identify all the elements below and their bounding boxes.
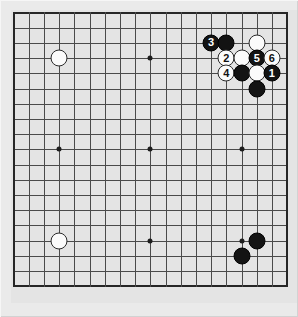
stone-white[interactable] — [51, 50, 68, 67]
grid-line-vertical — [105, 12, 106, 288]
stone-move-number: 5 — [254, 52, 260, 63]
grid-line-vertical — [211, 12, 212, 288]
stone-move-number: 1 — [269, 67, 275, 78]
star-point — [57, 147, 62, 152]
grid-line-vertical — [120, 12, 121, 288]
grid-line-vertical — [29, 12, 30, 288]
star-point — [239, 147, 244, 152]
star-point — [148, 238, 153, 243]
stone-move-number: 3 — [208, 37, 214, 48]
stone-black[interactable] — [248, 232, 265, 249]
stone-move-number: 6 — [269, 52, 275, 63]
go-diagram-app: 325641 — [0, 0, 298, 317]
stone-black-move-1[interactable]: 1 — [263, 65, 280, 82]
grid-line-vertical — [166, 12, 167, 288]
stone-move-number: 4 — [223, 67, 229, 78]
grid-line-vertical — [286, 12, 288, 288]
stone-black[interactable] — [233, 247, 250, 264]
grid-line-vertical — [90, 12, 91, 288]
grid-line-vertical — [44, 12, 45, 288]
grid-line-vertical — [13, 12, 15, 288]
grid-line-vertical — [74, 12, 75, 288]
grid-line-vertical — [196, 12, 197, 288]
star-point — [148, 56, 153, 61]
star-point — [148, 147, 153, 152]
stone-black[interactable] — [248, 80, 265, 97]
go-board[interactable]: 325641 — [11, 10, 298, 303]
grid-line-vertical — [135, 12, 136, 288]
stone-white[interactable] — [51, 232, 68, 249]
grid-line-vertical — [181, 12, 182, 288]
star-point — [239, 238, 244, 243]
stone-move-number: 2 — [223, 52, 229, 63]
